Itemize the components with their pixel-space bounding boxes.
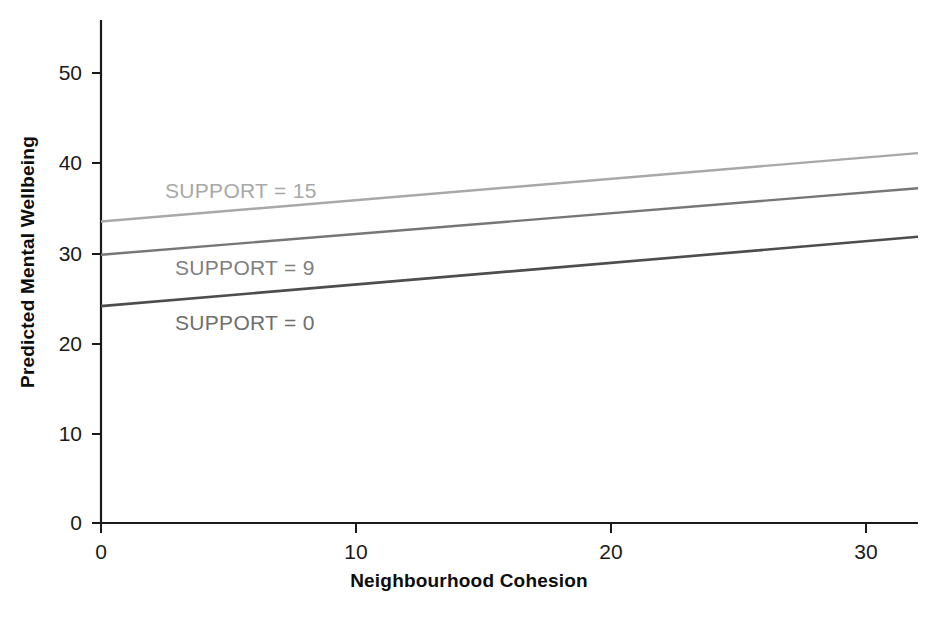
y-tick-label-0: 0	[40, 511, 82, 535]
x-axis-title: Neighbourhood Cohesion	[350, 570, 588, 592]
series-annotation-support-0: SUPPORT = 0	[175, 311, 315, 335]
x-tick-label-20: 20	[599, 540, 622, 564]
y-tick-label-10: 10	[40, 422, 82, 446]
x-tick-label-10: 10	[344, 540, 367, 564]
series-annotation-support-15: SUPPORT = 15	[165, 179, 317, 203]
x-tick-label-30: 30	[854, 540, 877, 564]
x-tick-label-0: 0	[95, 540, 107, 564]
y-tick-label-30: 30	[40, 242, 82, 266]
y-tick-label-50: 50	[40, 61, 82, 85]
chart-figure: 50 40 30 20 10 0 0 10 20 30 Neighbourhoo…	[0, 0, 938, 624]
y-tick-label-20: 20	[40, 332, 82, 356]
y-axis-title: Predicted Mental Wellbeing	[17, 136, 39, 388]
series-annotation-support-9: SUPPORT = 9	[175, 256, 315, 280]
y-tick-label-40: 40	[40, 151, 82, 175]
chart-plot-area	[0, 0, 938, 624]
